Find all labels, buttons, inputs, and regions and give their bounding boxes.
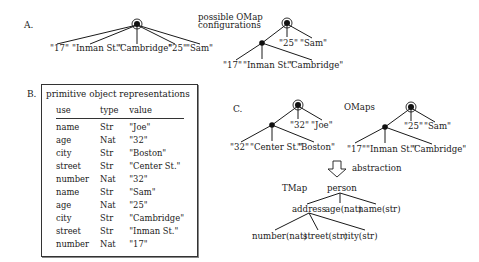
omaps-label: OMaps (344, 102, 375, 112)
cell-value: "17" (129, 238, 184, 251)
leaf-label: "17" (223, 60, 242, 70)
table-row: streetStr"Center St." (56, 160, 184, 173)
table-row: numberNat"32" (56, 173, 184, 186)
cell-use: age (56, 199, 100, 212)
table-row: streetStr"Inman St." (56, 225, 184, 238)
cell-value: "Sam" (129, 186, 184, 199)
leaf-label: "Center St." (250, 142, 303, 152)
leaf-label: "Cambridge" (116, 43, 172, 53)
table-header-row: use type value (56, 104, 184, 119)
leaf-label: "Boston" (297, 142, 335, 152)
cell-type: Nat (100, 238, 129, 251)
tmap-node: street(str) (303, 231, 347, 241)
leaf-label: "25" (168, 43, 187, 53)
cell-type: Str (100, 119, 129, 135)
cell-type: Str (100, 225, 129, 238)
leaf-label: "25" (404, 121, 423, 131)
table-row: cityStr"Boston" (56, 147, 184, 160)
cell-type: Str (100, 160, 129, 173)
cell-value: "32" (129, 134, 184, 147)
cell-type: Nat (100, 173, 129, 186)
leaf-label: "Sam" (186, 43, 213, 53)
leaf-label: "Inman St." (243, 60, 293, 70)
table-row: nameStr"Sam" (56, 186, 184, 199)
tmap-root: person (327, 183, 357, 193)
panel-a-label: A. (24, 20, 33, 30)
tmap-node: number(nat) (252, 231, 307, 241)
abstraction-arrow-icon (328, 161, 346, 177)
omap-tmap-diagram: A. "17" "Inman St." "Cambridge" "25" "Sa… (0, 0, 479, 262)
cell-value: "Inman St." (129, 225, 184, 238)
cell-use: city (56, 147, 100, 160)
table-row: ageNat"25" (56, 199, 184, 212)
leaf-label: "17" (347, 144, 366, 154)
cell-type: Nat (100, 199, 129, 212)
cell-use: street (56, 160, 100, 173)
leaf-label: "Inman St." (366, 144, 416, 154)
cell-value: "25" (129, 199, 184, 212)
cell-value: "Joe" (129, 119, 184, 135)
cell-value: "32" (129, 173, 184, 186)
cell-use: age (56, 134, 100, 147)
table-row: cityStr"Cambridge" (56, 212, 184, 225)
caption-line-2: configurations (198, 21, 261, 30)
tmap-node: address (292, 204, 326, 214)
primitive-object-table: use type value nameStr"Joe" ageNat"32" c… (56, 104, 184, 251)
leaf-label: "Inman St." (72, 43, 122, 53)
column-header-value: value (129, 104, 184, 119)
panel-b-label: B. (27, 89, 36, 99)
cell-value: "Boston" (129, 147, 184, 160)
cell-type: Str (100, 186, 129, 199)
table-row: numberNat"17" (56, 238, 184, 251)
leaf-label: "32" (230, 142, 249, 152)
leaf-label: "Sam" (424, 121, 451, 131)
leaf-label: "Cambridge" (410, 144, 466, 154)
leaf-label: "32" (290, 120, 309, 130)
table-row: nameStr"Joe" (56, 119, 184, 135)
cell-use: name (56, 186, 100, 199)
abstraction-label: abstraction (352, 163, 401, 173)
cell-use: street (56, 225, 100, 238)
tmap-node: name(str) (358, 204, 401, 214)
tmap-label: TMap (282, 183, 307, 193)
primitive-object-table-box: primitive object representations use typ… (41, 84, 198, 257)
panel-c-label: C. (233, 104, 242, 114)
cell-use: name (56, 119, 100, 135)
leaf-label: "25" (279, 38, 298, 48)
leaf-label: "17" (50, 43, 69, 53)
cell-type: Str (100, 212, 129, 225)
leaf-label: "Cambridge" (287, 60, 343, 70)
tmap-node: city(str) (343, 231, 378, 241)
column-header-type: type (100, 104, 129, 119)
tmap-node: age(nat) (325, 204, 362, 214)
leaf-label: "Sam" (300, 38, 327, 48)
leaf-label: "Joe" (311, 120, 333, 130)
cell-use: number (56, 238, 100, 251)
table-title: primitive object representations (46, 89, 190, 99)
cell-use: number (56, 173, 100, 186)
cell-value: "Center St." (129, 160, 184, 173)
cell-type: Nat (100, 134, 129, 147)
table-row: ageNat"32" (56, 134, 184, 147)
cell-value: "Cambridge" (129, 212, 184, 225)
column-header-use: use (56, 104, 100, 119)
cell-type: Str (100, 147, 129, 160)
cell-use: city (56, 212, 100, 225)
